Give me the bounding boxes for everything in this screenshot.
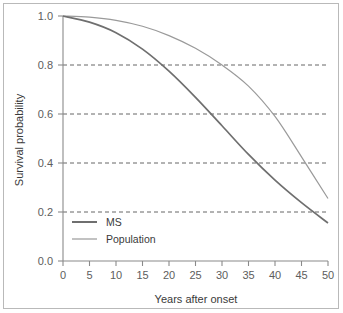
x-tick-label: 50 — [322, 269, 334, 281]
line-ms — [63, 16, 328, 223]
x-tick-label: 10 — [110, 269, 122, 281]
x-tick-label: 20 — [163, 269, 175, 281]
x-tick-label: 5 — [86, 269, 92, 281]
x-tick-label: 45 — [295, 269, 307, 281]
survival-chart: 1.0 0.8 0.6 0.4 0.2 0.0 0510152025303540… — [0, 0, 343, 313]
legend: MS Population — [72, 216, 156, 245]
y-tick-label: 0.0 — [38, 255, 53, 267]
grid-lines — [63, 65, 328, 261]
x-tick-label: 40 — [269, 269, 281, 281]
x-tick-label: 30 — [216, 269, 228, 281]
y-tick-label: 1.0 — [38, 10, 53, 22]
y-tick-label: 0.8 — [38, 59, 53, 71]
y-axis — [58, 16, 63, 261]
x-tick-label: 25 — [189, 269, 201, 281]
x-tick-labels: 05101520253035404550 — [60, 269, 334, 281]
y-tick-label: 0.4 — [38, 157, 53, 169]
series-lines — [63, 16, 328, 223]
y-axis-title: Survival probability — [13, 93, 25, 186]
survival-probability-figure: 1.0 0.8 0.6 0.4 0.2 0.0 0510152025303540… — [0, 0, 343, 313]
x-tick-label: 35 — [242, 269, 254, 281]
line-population — [63, 16, 328, 199]
legend-label-ms: MS — [106, 216, 122, 228]
x-tick-label: 15 — [136, 269, 148, 281]
y-tick-label: 0.2 — [38, 206, 53, 218]
y-tick-label: 0.6 — [38, 108, 53, 120]
legend-label-population: Population — [106, 233, 156, 245]
x-axis — [63, 261, 328, 266]
x-axis-title: Years after onset — [155, 293, 238, 305]
y-tick-labels: 1.0 0.8 0.6 0.4 0.2 0.0 — [38, 10, 53, 267]
x-tick-label: 0 — [60, 269, 66, 281]
